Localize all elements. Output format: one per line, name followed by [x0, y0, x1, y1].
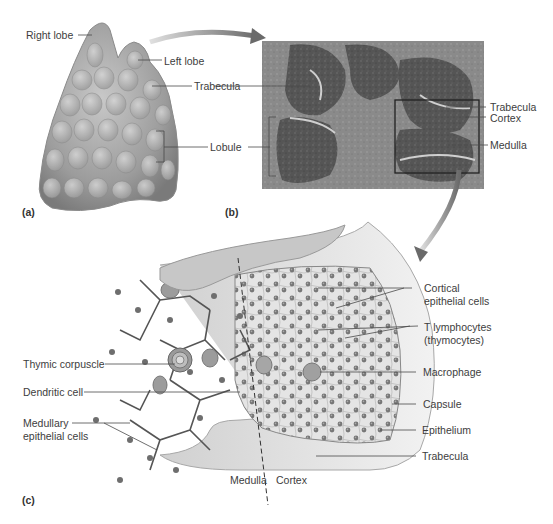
- label-thymic-corpuscle: Thymic corpuscle: [23, 358, 105, 370]
- micrograph-image: [262, 41, 484, 189]
- label-left-lobe: Left lobe: [164, 55, 204, 67]
- label-trabecula-c: Trabecula: [422, 450, 468, 462]
- arrow-a-to-b: [150, 32, 256, 42]
- label-epithelium: Epithelium: [422, 424, 471, 436]
- thymus-figure: [0, 0, 553, 524]
- panel-tag-b: (b): [225, 206, 238, 218]
- label-cortex-c: Cortex: [276, 474, 307, 486]
- label-right-lobe: Right lobe: [26, 29, 73, 41]
- dendritic-cell: [202, 349, 218, 367]
- thymic-corpuscle: [168, 348, 192, 372]
- panel-tag-a: (a): [22, 206, 35, 218]
- label-t-lymphocytes-1: T lymphocytes: [424, 321, 492, 333]
- label-cortical-epithelial-1: Cortical: [424, 282, 460, 294]
- label-macrophage: Macrophage: [423, 366, 481, 378]
- label-capsule: Capsule: [423, 398, 462, 410]
- label-medullary-epithelial-1: Medullary: [23, 417, 69, 429]
- label-medullary-epithelial-2: epithelial cells: [23, 430, 88, 442]
- label-cortex-b: Cortex: [490, 112, 521, 124]
- label-cortical-epithelial-2: epithelial cells: [424, 295, 489, 307]
- thymus-organ-illustration: [39, 23, 178, 211]
- label-t-lymphocytes-2: (thymocytes): [424, 334, 484, 346]
- label-trabecula-a: Trabecula: [194, 80, 240, 92]
- label-medulla-c: Medulla: [230, 474, 267, 486]
- label-dendritic-cell: Dendritic cell: [23, 386, 83, 398]
- label-lobule: Lobule: [210, 141, 242, 153]
- lobule-illustration: [93, 222, 434, 505]
- panel-tag-c: (c): [22, 494, 35, 506]
- label-medulla-b: Medulla: [490, 139, 527, 151]
- macrophage: [303, 363, 321, 381]
